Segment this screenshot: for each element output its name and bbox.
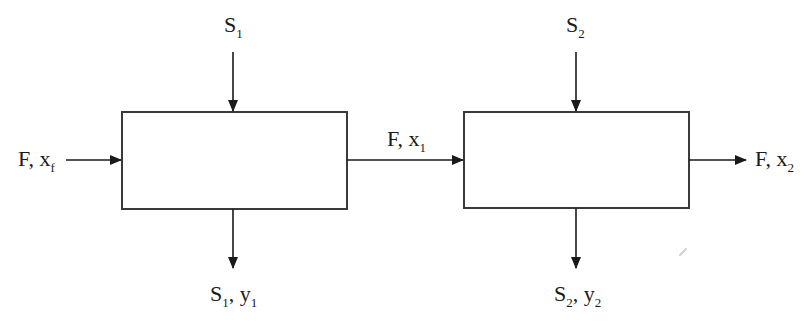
intermediate-label: F, x1	[387, 128, 426, 150]
solvent-2-label-sub: 2	[578, 26, 585, 41]
extract-2-label-main2: , y	[573, 281, 595, 306]
intermediate-label-main: F, x	[387, 126, 419, 151]
extract-1-label-main1: S	[210, 281, 222, 306]
flowsheet-diagram	[0, 0, 806, 324]
extract-1-label-sub2: 1	[251, 295, 258, 310]
extract-2-label-sub2: 2	[595, 295, 602, 310]
feed-label-sub: f	[50, 160, 54, 175]
solvent-1-label: S1	[224, 14, 243, 36]
solvent-2-label: S2	[566, 14, 585, 36]
product-label: F, x2	[755, 148, 794, 170]
solvent-2-label-main: S	[566, 12, 578, 37]
intermediate-label-sub: 1	[419, 140, 426, 155]
extract-2-label-main1: S	[554, 281, 566, 306]
product-label-main: F, x	[755, 146, 787, 171]
stage-2-box	[464, 112, 689, 208]
product-label-sub: 2	[787, 160, 794, 175]
extract-1-label-main2: , y	[229, 281, 251, 306]
extract-1-label: S1, y1	[210, 283, 257, 305]
feed-label: F, xf	[18, 148, 55, 170]
stage-1-box	[122, 112, 347, 209]
solvent-1-label-main: S	[224, 12, 236, 37]
extract-2-label: S2, y2	[554, 283, 601, 305]
smudge-mark	[680, 249, 686, 255]
solvent-1-label-sub: 1	[236, 26, 243, 41]
feed-label-main: F, x	[18, 146, 50, 171]
